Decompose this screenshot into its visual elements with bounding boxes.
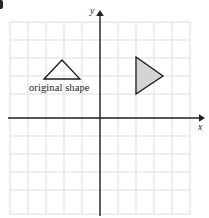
x-axis-label: x bbox=[198, 122, 202, 132]
figure-canvas: original shape y x bbox=[0, 0, 209, 218]
y-axis-label: y bbox=[90, 6, 94, 16]
x-axis bbox=[8, 114, 205, 122]
y-axis bbox=[96, 10, 104, 216]
image-triangle bbox=[136, 57, 163, 94]
coordinate-plane bbox=[0, 0, 209, 218]
original-shape-label: original shape bbox=[29, 82, 90, 94]
